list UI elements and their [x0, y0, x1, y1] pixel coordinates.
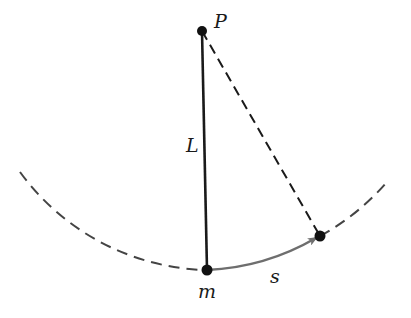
pivot-point	[197, 26, 207, 36]
label-pivot: P	[213, 10, 228, 32]
label-length: L	[185, 134, 199, 156]
label-mass: m	[198, 280, 216, 302]
string-displaced	[202, 31, 320, 236]
mass-displaced-point	[315, 231, 326, 242]
string-rest	[202, 31, 207, 270]
arc-length-arrow	[207, 238, 316, 270]
pendulum-diagram: P L m s	[0, 0, 411, 318]
mass-rest-point	[202, 265, 213, 276]
dashed-arc-right	[320, 183, 386, 236]
dashed-arc-left	[20, 172, 205, 270]
label-arc-length: s	[270, 265, 280, 287]
